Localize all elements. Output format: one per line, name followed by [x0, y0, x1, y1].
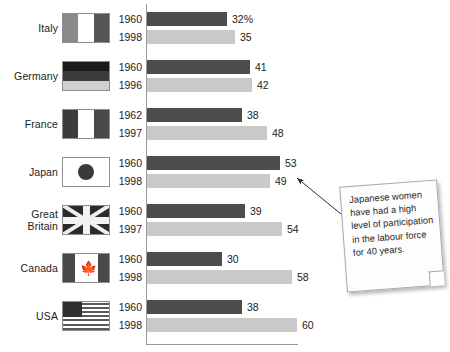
- flag-band: [63, 110, 78, 138]
- bar: [147, 270, 292, 284]
- bar: [147, 126, 267, 140]
- country-label: Germany: [0, 71, 58, 83]
- callout-note: Japanese women have had a high level of …: [339, 180, 445, 293]
- flag-france-icon: [62, 109, 110, 139]
- country-label-line2: Britain: [28, 220, 58, 232]
- bar: [147, 156, 280, 170]
- bar-value-label: 32%: [232, 12, 253, 26]
- bar-value-label: 58: [297, 270, 309, 284]
- year-label: 1996: [112, 78, 142, 92]
- note-fold-corner: [429, 270, 445, 286]
- bar: [147, 252, 222, 266]
- bar-value-label: 38: [247, 108, 259, 122]
- year-label: 1960: [112, 204, 142, 218]
- callout-note-text: Japanese women have had a high level of …: [349, 188, 438, 260]
- bar: [147, 60, 250, 74]
- bar: [147, 108, 242, 122]
- year-label: 1960: [112, 12, 142, 26]
- flag-cross-bar: [83, 206, 90, 234]
- flag-band: [78, 110, 93, 138]
- year-label: 1960: [112, 60, 142, 74]
- flag-stripe: [63, 328, 109, 330]
- flag-canton: [63, 302, 82, 317]
- value-axis-baseline: [146, 344, 298, 345]
- bar-value-label: 41: [255, 60, 267, 74]
- year-label: 1960: [112, 252, 142, 266]
- flag-italy-icon: [62, 13, 110, 43]
- flag-band: [63, 62, 109, 71]
- flag-stripe: [63, 319, 109, 321]
- bar: [147, 174, 270, 188]
- flag-japan-icon: [62, 157, 110, 187]
- year-label: 1962: [112, 108, 142, 122]
- bar-value-label: 60: [302, 318, 314, 332]
- country-label: Canada: [0, 263, 58, 275]
- bar: [147, 12, 227, 26]
- bar-value-label: 49: [275, 174, 287, 188]
- year-label: 1998: [112, 318, 142, 332]
- bar: [147, 204, 245, 218]
- bar: [147, 30, 235, 44]
- year-label: 1997: [112, 126, 142, 140]
- bar-value-label: 35: [240, 30, 252, 44]
- bar: [147, 318, 297, 332]
- flag-band: [94, 14, 109, 42]
- maple-leaf-icon: 🍁: [80, 260, 97, 276]
- bar-value-label: 48: [272, 126, 284, 140]
- flag-great-britain-icon: [62, 205, 110, 235]
- year-label: 1960: [112, 156, 142, 170]
- bar: [147, 78, 252, 92]
- country-label: France: [0, 119, 58, 131]
- bar-value-label: 30: [227, 252, 239, 266]
- bar-value-label: 39: [250, 204, 262, 218]
- year-label: 1998: [112, 174, 142, 188]
- flag-band: [94, 110, 109, 138]
- year-label: 1960: [112, 300, 142, 314]
- year-label: 1998: [112, 30, 142, 44]
- country-label: Italy: [0, 23, 58, 35]
- flag-band: [98, 254, 110, 282]
- bar: [147, 222, 282, 236]
- flag-germany-icon: [62, 61, 110, 91]
- flag-canada-icon: 🍁: [62, 253, 110, 283]
- bar-value-label: 42: [257, 78, 269, 92]
- country-label: USA: [0, 311, 58, 323]
- year-label: 1997: [112, 222, 142, 236]
- flag-usa-icon: [62, 301, 110, 331]
- flag-stripe: [63, 324, 109, 326]
- flag-band: [78, 14, 93, 42]
- bar-chart: Italy196032%199835Germany196041199642Fra…: [0, 0, 450, 352]
- country-label: GreatBritain: [0, 209, 58, 232]
- bar-value-label: 38: [247, 300, 259, 314]
- flag-sun-disc: [78, 164, 94, 180]
- flag-band: [63, 81, 109, 90]
- flag-band: [63, 14, 78, 42]
- year-label: 1998: [112, 270, 142, 284]
- country-label: Japan: [0, 167, 58, 179]
- flag-band: [63, 71, 109, 80]
- bar: [147, 300, 242, 314]
- flag-band: [63, 254, 75, 282]
